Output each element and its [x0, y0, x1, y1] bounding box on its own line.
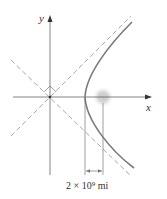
dimension-arrow-right-icon: [98, 169, 102, 172]
x-axis-label: x: [145, 101, 151, 113]
axes: [13, 20, 148, 175]
dimension-arrow-left-icon: [86, 169, 90, 172]
hyperbola-diagram: y x 2 × 10⁹ mi: [0, 0, 167, 199]
origin-point: [49, 96, 52, 99]
x-axis-arrow-icon: [145, 95, 152, 100]
y-axis-label: y: [38, 12, 44, 24]
y-axis-arrow-icon: [48, 15, 53, 22]
dimension-label: 2 × 10⁹ mi: [66, 180, 108, 191]
